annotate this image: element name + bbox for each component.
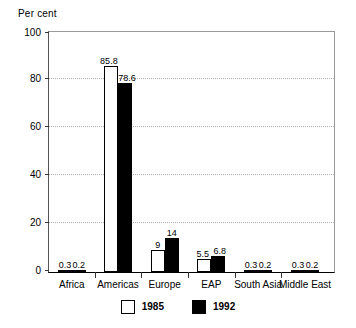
bar-value-africa-1985: 0.3: [59, 261, 72, 270]
x-label-europe: Europe: [149, 279, 181, 290]
bar-eap-1985[interactable]: 5.5: [197, 259, 211, 272]
bar-value-americas-1985: 85.8: [100, 57, 118, 66]
bar-value-europe-1992: 14: [167, 229, 177, 238]
x-tick-sep-3: [188, 272, 189, 278]
x-label-south-asia: South Asia: [234, 279, 282, 290]
bar-americas-1992[interactable]: 78.6: [118, 83, 132, 272]
bar-europe-1985[interactable]: 9: [151, 250, 165, 272]
bar-value-eap-1985: 5.5: [197, 250, 210, 259]
bar-value-europe-1985: 9: [155, 241, 160, 250]
bar-south-asia-1985[interactable]: 0.3: [244, 270, 258, 272]
x-label-middle-east: Middle East: [279, 279, 331, 290]
x-tick-sep-4: [235, 272, 236, 278]
legend-label-1992: 1992: [213, 302, 235, 312]
category-group-middle-east: 0.3 0.2 Middle East: [281, 32, 334, 272]
x-label-africa: Africa: [59, 279, 85, 290]
bar-africa-1992[interactable]: 0.2: [72, 270, 86, 272]
bar-value-south-asia-1985: 0.3: [245, 261, 258, 270]
bar-value-middle-east-1992: 0.2: [306, 261, 319, 270]
category-group-americas: 85.8 78.6 Americas: [95, 32, 142, 272]
bar-europe-1992[interactable]: 14: [165, 238, 179, 272]
bar-africa-1985[interactable]: 0.3: [58, 270, 72, 272]
category-group-europe: 9 14 Europe: [141, 32, 188, 272]
x-tick-sep-2: [141, 272, 142, 278]
category-group-south-asia: 0.3 0.2 South Asia: [235, 32, 282, 272]
legend-item-1992[interactable]: 1992: [192, 300, 235, 314]
x-tick-sep-5: [281, 272, 282, 278]
category-group-africa: 0.3 0.2 Africa: [49, 32, 95, 272]
bar-middle-east-1992[interactable]: 0.2: [305, 270, 319, 272]
x-tick-sep-1: [95, 272, 96, 278]
bar-south-asia-1992[interactable]: 0.2: [258, 270, 272, 272]
x-label-eap: EAP: [201, 279, 221, 290]
bar-americas-1985[interactable]: 85.8: [104, 66, 118, 272]
bar-value-middle-east-1985: 0.3: [292, 261, 305, 270]
bar-value-africa-1992: 0.2: [72, 261, 85, 270]
chart-legend: 1985 1992: [0, 300, 356, 314]
bar-value-eap-1992: 6.8: [214, 247, 227, 256]
bar-value-americas-1992: 78.6: [118, 74, 136, 83]
category-group-eap: 5.5 6.8 EAP: [188, 32, 235, 272]
bar-middle-east-1985[interactable]: 0.3: [291, 270, 305, 272]
bar-value-south-asia-1992: 0.2: [259, 261, 272, 270]
plot-area: 100 80 60 40 20 0 0.3: [48, 31, 335, 273]
legend-item-1985[interactable]: 1985: [121, 300, 164, 314]
bar-eap-1992[interactable]: 6.8: [211, 256, 225, 272]
legend-swatch-1985-icon: [121, 300, 135, 314]
legend-label-1985: 1985: [142, 302, 164, 312]
legend-swatch-1992-icon: [192, 300, 206, 314]
x-label-americas: Americas: [97, 279, 139, 290]
y-axis-title: Per cent: [18, 8, 57, 19]
bar-chart: Per cent 100 80 60 40 20 0: [0, 0, 356, 328]
